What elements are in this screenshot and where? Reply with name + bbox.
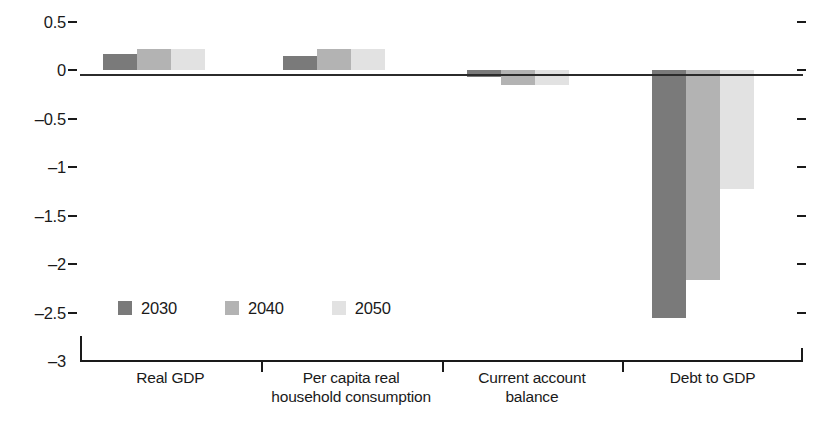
x-axis-category-label: Current accountbalance <box>442 368 623 406</box>
legend-label: 2040 <box>248 300 284 317</box>
x-axis-category-label: Real GDP <box>80 368 261 387</box>
x-axis-category-label: Debt to GDP <box>622 368 803 387</box>
y-axis-tick-label: –3 <box>4 353 66 370</box>
y-axis-tick-mark <box>68 263 77 265</box>
y-axis-tick-label: –1 <box>4 159 66 176</box>
legend-item-2040[interactable]: 2040 <box>225 300 284 317</box>
y-axis-tick-label: –2 <box>4 256 66 273</box>
bar-chart: 0.50–0.5–1–1.5–2–2.5–3 Real GDPPer capit… <box>0 0 823 425</box>
bar-2050-real-gdp <box>171 49 205 70</box>
bar-2050-per-capita-real-household-consumption <box>351 49 385 70</box>
y-axis-tick-mark <box>68 69 77 71</box>
y-axis-tick-mark <box>68 118 77 120</box>
legend-item-2030[interactable]: 2030 <box>118 300 177 317</box>
legend-item-2050[interactable]: 2050 <box>332 300 391 317</box>
y-axis-tick-label: –2.5 <box>4 304 66 321</box>
y-axis-line <box>80 336 82 362</box>
bar-2030-per-capita-real-household-consumption <box>283 56 317 71</box>
x-axis-category-label: Per capita realhousehold consumption <box>261 368 442 406</box>
y-axis-tick-labels: 0.50–0.5–1–1.5–2–2.5–3 <box>0 0 66 425</box>
legend-swatch-icon <box>332 301 346 315</box>
bar-2050-current-account-balance <box>535 70 569 85</box>
y-axis-tick-label: –1.5 <box>4 207 66 224</box>
y-axis-tick-label: 0.5 <box>4 14 66 31</box>
x-axis-category-label-line: Current account <box>442 368 623 387</box>
y-axis-tick-label: –0.5 <box>4 111 66 128</box>
bar-2040-real-gdp <box>137 49 171 70</box>
y-axis-tick-mark <box>68 166 77 168</box>
x-axis-category-label-line: Debt to GDP <box>622 368 803 387</box>
x-axis-category-label-line: balance <box>442 387 623 406</box>
legend-label: 2030 <box>141 300 177 317</box>
x-axis-category-label-line: Real GDP <box>80 368 261 387</box>
y-axis-tick-mark <box>68 215 77 217</box>
legend-label: 2050 <box>355 300 391 317</box>
x-axis-right-cap <box>801 348 803 362</box>
bar-2030-real-gdp <box>103 54 137 70</box>
legend-swatch-icon <box>118 301 132 315</box>
zero-baseline <box>80 74 803 76</box>
y-axis-tick-mark <box>68 21 77 23</box>
x-axis-category-label-line: Per capita real <box>261 368 442 387</box>
x-axis-category-label-line: household consumption <box>261 387 442 406</box>
bar-2040-per-capita-real-household-consumption <box>317 49 351 70</box>
bar-2040-debt-to-gdp <box>686 70 720 279</box>
bar-2050-debt-to-gdp <box>720 70 754 188</box>
bar-2040-current-account-balance <box>501 70 535 85</box>
y-axis-tick-label: 0 <box>4 62 66 79</box>
chart-legend: 203020402050 <box>118 300 439 317</box>
y-axis-tick-mark <box>68 312 77 314</box>
bar-2030-debt-to-gdp <box>652 70 686 318</box>
legend-swatch-icon <box>225 301 239 315</box>
